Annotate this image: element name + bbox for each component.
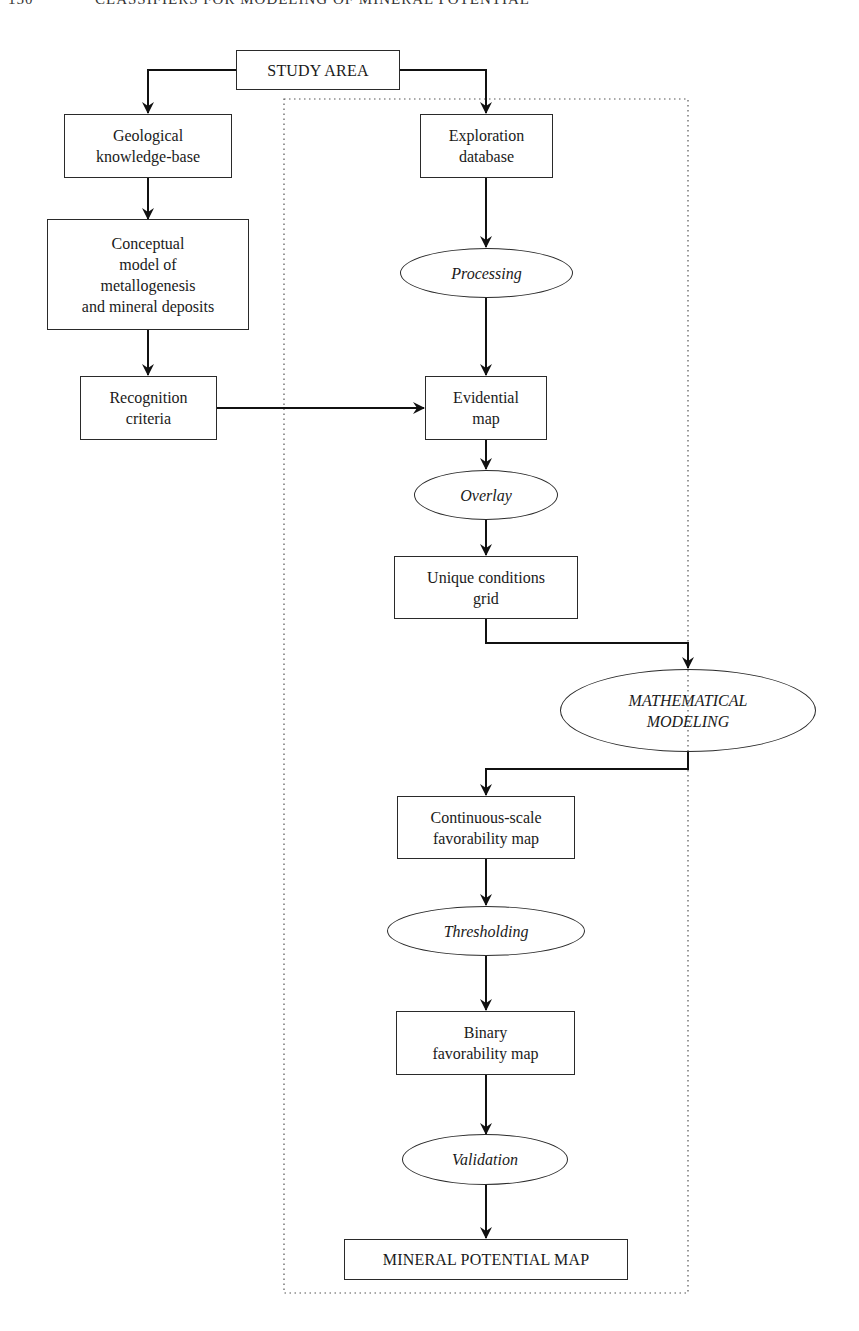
edge-unique-to-math [486, 619, 688, 668]
node-thresholding: Thresholding [387, 906, 585, 956]
node-processing: Processing [400, 248, 573, 298]
node-validation: Validation [402, 1134, 568, 1185]
node-overlay: Overlay [414, 470, 558, 520]
node-recognition-criteria: Recognition criteria [80, 376, 217, 440]
flowchart-connectors [0, 0, 859, 1331]
node-binary-favorability-map: Binary favorability map [396, 1011, 575, 1075]
edge-math-to-continuous [486, 752, 688, 795]
node-mathematical-modeling: MATHEMATICAL MODELING [560, 669, 816, 752]
node-exploration-database: Exploration database [420, 114, 553, 178]
node-evidential-map: Evidential map [425, 376, 547, 440]
node-study-area: STUDY AREA [236, 50, 400, 90]
node-unique-conditions-grid: Unique conditions grid [394, 556, 578, 619]
node-mineral-potential-map: MINERAL POTENTIAL MAP [344, 1239, 628, 1280]
node-continuous-scale-favorability-map: Continuous-scale favorability map [397, 796, 575, 859]
node-geological-knowledge-base: Geological knowledge-base [64, 114, 232, 178]
edge-study-to-geological [148, 70, 236, 113]
edge-study-to-exploration [400, 70, 486, 113]
node-conceptual-model: Conceptual model of metallogenesis and m… [47, 219, 249, 330]
